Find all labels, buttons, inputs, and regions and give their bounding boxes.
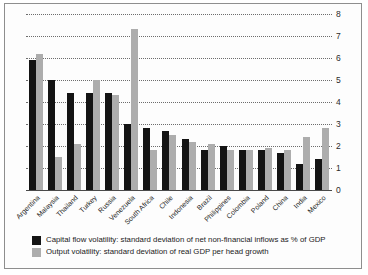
bar-group: [64, 14, 83, 190]
bar: [55, 157, 62, 190]
bar: [86, 93, 93, 190]
black-swatch-icon: [32, 236, 41, 245]
chart-legend: Capital flow volatility: standard deviat…: [32, 236, 354, 260]
gridline-0: [26, 190, 332, 191]
bar: [246, 150, 253, 190]
x-tick-label: Chile: [158, 194, 174, 210]
bar: [239, 150, 246, 190]
x-tick-cell: Poland: [256, 192, 275, 234]
bar: [29, 60, 36, 190]
x-tick-cell: Indonesia: [179, 192, 198, 234]
bar: [322, 128, 329, 190]
bar-group: [236, 14, 255, 190]
legend-item-capital-flow-volatility: Capital flow volatility: standard deviat…: [32, 236, 354, 245]
x-tick-label: China: [271, 194, 289, 212]
bar: [162, 131, 169, 190]
x-tick-label: India: [293, 194, 309, 210]
bar-group: [141, 14, 160, 190]
y-tick-label-2: 2: [336, 142, 341, 151]
bar-group: [83, 14, 102, 190]
bar: [93, 80, 100, 190]
bar: [124, 124, 131, 190]
x-tick-cell: Turkey: [83, 192, 102, 234]
bar: [265, 148, 272, 190]
bar: [284, 150, 291, 190]
bar-group: [160, 14, 179, 190]
bar-group: [103, 14, 122, 190]
bar-group: [198, 14, 217, 190]
bar: [208, 144, 215, 190]
bar: [150, 150, 157, 190]
legend-label: Output volatility: standard deviation of…: [46, 248, 269, 257]
y-tick-label-3: 3: [336, 120, 341, 129]
bar: [277, 153, 284, 190]
bar-group: [275, 14, 294, 190]
bar: [74, 144, 81, 190]
y-tick-label-0: 0: [336, 186, 341, 195]
bar-group: [179, 14, 198, 190]
bar: [201, 150, 208, 190]
bar: [131, 29, 138, 190]
legend-label: Capital flow volatility: standard deviat…: [46, 236, 326, 245]
bar: [48, 80, 55, 190]
bar: [296, 164, 303, 190]
bar: [169, 135, 176, 190]
bar-group: [294, 14, 313, 190]
bar-group: [122, 14, 141, 190]
bar: [303, 137, 310, 190]
bar: [227, 150, 234, 190]
bar: [143, 128, 150, 190]
x-tick-cell: Mexico: [313, 192, 332, 234]
y-tick-label-4: 4: [336, 98, 341, 107]
bar: [105, 93, 112, 190]
y-tick-label-1: 1: [336, 164, 341, 173]
legend-item-output-volatility: Output volatility: standard deviation of…: [32, 248, 354, 257]
bar: [315, 159, 322, 190]
y-axis-labels: 012345678: [336, 14, 356, 190]
x-tick-cell: Thailand: [64, 192, 83, 234]
bar-group: [26, 14, 45, 190]
bar-group: [217, 14, 236, 190]
bar-group: [256, 14, 275, 190]
bar: [36, 54, 43, 190]
y-tick-label-7: 7: [336, 32, 341, 41]
bar: [220, 146, 227, 190]
bar: [182, 139, 189, 190]
grey-swatch-icon: [32, 248, 41, 257]
bar-group: [313, 14, 332, 190]
x-tick-label: Brazil: [195, 194, 212, 211]
bar-group: [45, 14, 64, 190]
chart-figure: 012345678 ArgentinaMalaysiaThailandTurke…: [0, 0, 368, 275]
x-axis-labels: ArgentinaMalaysiaThailandTurkeyRussiaVen…: [26, 192, 332, 234]
bar-series-container: [26, 14, 332, 190]
y-tick-label-5: 5: [336, 76, 341, 85]
bar: [258, 150, 265, 190]
x-tick-cell: China: [275, 192, 294, 234]
bar: [112, 95, 119, 190]
bar: [67, 93, 74, 190]
y-tick-label-6: 6: [336, 54, 341, 63]
y-tick-label-8: 8: [336, 10, 341, 19]
plot-area: [26, 14, 332, 190]
x-tick-cell: South Africa: [141, 192, 160, 234]
bar: [189, 142, 196, 190]
